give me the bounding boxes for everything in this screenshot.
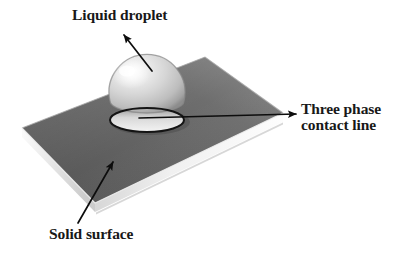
label-three-phase-contact-line: Three phase contact line xyxy=(301,101,381,134)
label-three-phase-line2: contact line xyxy=(301,117,381,133)
droplet-highlight-core xyxy=(119,66,135,77)
label-solid-surface: Solid surface xyxy=(49,226,133,242)
label-liquid-droplet: Liquid droplet xyxy=(72,7,167,23)
figure-canvas: Liquid droplet Three phase contact line … xyxy=(0,0,409,254)
label-liquid-droplet-text: Liquid droplet xyxy=(72,6,167,23)
label-solid-surface-text: Solid surface xyxy=(49,225,133,242)
label-three-phase-line1: Three phase xyxy=(301,100,381,117)
